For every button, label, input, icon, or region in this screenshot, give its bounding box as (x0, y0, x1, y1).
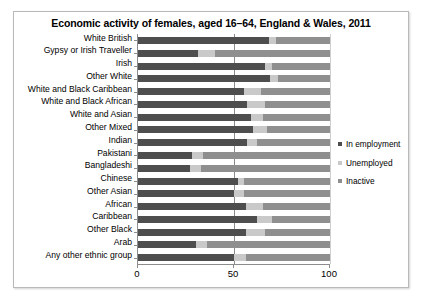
stacked-bar (138, 37, 330, 44)
bar-segment-inactive (215, 50, 330, 57)
category-label: Bangladeshi (0, 159, 132, 173)
stacked-bar (138, 63, 330, 70)
stacked-bar (138, 254, 330, 261)
stacked-bar (138, 152, 330, 159)
stacked-bar (138, 101, 330, 108)
bar-segment-inactive (278, 75, 330, 82)
bar-segment-unemployed (265, 63, 273, 70)
bar-segment-unemployed (247, 101, 264, 108)
table-row (138, 47, 330, 61)
bar-segment-in-employment (138, 50, 198, 57)
bar-segment-unemployed (190, 165, 202, 172)
y-axis-tick (134, 194, 137, 195)
table-row (138, 60, 330, 74)
table-row (138, 187, 330, 201)
table-row (138, 226, 330, 240)
bar-segment-in-employment (138, 203, 246, 210)
y-axis-tick (134, 155, 137, 156)
category-label: White British (0, 32, 132, 46)
legend-item: Inactive (338, 176, 400, 186)
legend-item: Unemployed (338, 158, 400, 168)
y-axis-tick (134, 130, 137, 131)
bar-segment-in-employment (138, 37, 269, 44)
table-row (138, 111, 330, 125)
table-row (138, 213, 330, 227)
category-label: White and Black Caribbean (0, 83, 132, 97)
bar-segment-inactive (201, 165, 330, 172)
bar-segment-in-employment (138, 229, 246, 236)
table-row (138, 251, 330, 265)
legend-label: Unemployed (346, 158, 393, 168)
bar-segment-in-employment (138, 63, 265, 70)
category-label: Indian (0, 134, 132, 148)
bar-segment-unemployed (234, 254, 246, 261)
y-axis-tick (134, 181, 137, 182)
bar-segment-in-employment (138, 165, 190, 172)
category-label: Arab (0, 236, 132, 250)
stacked-bar (138, 178, 330, 185)
category-label: Gypsy or Irish Traveller (0, 44, 132, 58)
y-axis-tick (134, 66, 137, 67)
bar-segment-unemployed (269, 37, 277, 44)
stacked-bar (138, 241, 330, 248)
bar-segment-in-employment (138, 190, 234, 197)
category-label: Other Black (0, 223, 132, 237)
bar-segment-unemployed (246, 203, 263, 210)
category-label: Any other ethnic group (0, 249, 132, 263)
table-row (138, 149, 330, 163)
legend-item: In employment (338, 139, 400, 149)
bar-segment-unemployed (244, 88, 261, 95)
bar-segment-in-employment (138, 88, 244, 95)
bar-segment-unemployed (251, 114, 263, 121)
bar-segment-inactive (203, 152, 330, 159)
stacked-bar (138, 190, 330, 197)
bar-segment-in-employment (138, 178, 238, 185)
bar-segment-inactive (263, 114, 330, 121)
bar-segment-unemployed (270, 75, 278, 82)
bar-segment-unemployed (192, 152, 204, 159)
category-label: Caribbean (0, 210, 132, 224)
table-row (138, 200, 330, 214)
y-axis-tick (134, 79, 137, 80)
table-row (138, 72, 330, 86)
bar-segment-in-employment (138, 114, 251, 121)
legend-label: In employment (346, 139, 400, 149)
y-axis-tick (134, 117, 137, 118)
y-axis-tick (134, 232, 137, 233)
category-label: Other Mixed (0, 121, 132, 135)
category-label: Pakistani (0, 147, 132, 161)
category-label: Chinese (0, 172, 132, 186)
bar-segment-inactive (261, 88, 330, 95)
x-axis-tick-label: 0 (134, 268, 139, 279)
table-row (138, 85, 330, 99)
legend-swatch-icon (338, 179, 342, 183)
bar-segment-unemployed (253, 126, 266, 133)
stacked-bar (138, 165, 330, 172)
table-row (138, 123, 330, 137)
table-row (138, 238, 330, 252)
table-row (138, 98, 330, 112)
bar-segment-unemployed (234, 190, 244, 197)
bar-segment-inactive (265, 229, 330, 236)
bar-segment-inactive (265, 101, 330, 108)
stacked-bar (138, 126, 330, 133)
y-axis-tick (134, 168, 137, 169)
bar-segment-in-employment (138, 216, 257, 223)
bar-segment-inactive (272, 216, 330, 223)
legend-swatch-icon (338, 142, 342, 146)
bar-segment-in-employment (138, 101, 247, 108)
bar-segment-in-employment (138, 254, 234, 261)
bar-segment-inactive (272, 63, 330, 70)
stacked-bar (138, 203, 330, 210)
bar-segment-in-employment (138, 126, 253, 133)
bar-segment-in-employment (138, 152, 192, 159)
table-row (138, 175, 330, 189)
x-axis-tick-label: 100 (321, 268, 337, 279)
bar-segment-inactive (263, 203, 330, 210)
bar-segment-inactive (257, 139, 330, 146)
plot-area (137, 34, 331, 264)
y-axis-tick (134, 40, 137, 41)
y-axis-tick (134, 219, 137, 220)
table-row (138, 34, 330, 48)
bar-segment-in-employment (138, 75, 270, 82)
